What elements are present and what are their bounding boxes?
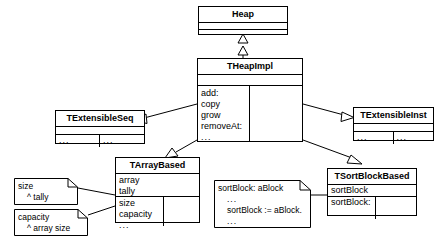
note-line: sortBlock := aBlock. [218, 205, 307, 216]
class-textensibleinst-operations-left: ... [354, 132, 394, 144]
operation-row-ellipsis: ... [116, 220, 163, 231]
class-textensibleseq-title: TExtensibleSeq [56, 111, 144, 127]
operation-row-ellipsis: ... [394, 132, 434, 143]
operation-row-ellipsis: ... [56, 135, 99, 146]
operation-row: add: [198, 88, 249, 99]
note-line: ^ tally [18, 192, 74, 203]
class-textensibleinst[interactable]: TExtensibleInst ... ... [353, 107, 434, 141]
connector-theapimpl-to-tarraybased [165, 140, 197, 158]
connector-theapimpl-to-heap [238, 34, 248, 58]
class-theapimpl-operations-left: add: copy grow removeAt: ... [198, 86, 250, 142]
class-textensibleseq-attributes [56, 127, 144, 135]
class-textensibleinst-operations: ... ... [354, 132, 433, 144]
class-tarraybased-operations-left: size capacity ... [116, 197, 164, 226]
class-theapimpl[interactable]: THeapImpl add: copy grow removeAt: ... [197, 58, 303, 142]
operation-row: copy [198, 99, 249, 110]
class-heap-operations [199, 30, 287, 37]
attribute-row: tally [116, 186, 199, 197]
attribute-row: sortBlock [328, 185, 416, 196]
operation-row-ellipsis: ... [354, 132, 393, 143]
note-size[interactable]: size ^ tally [14, 178, 78, 205]
operation-row: size [116, 198, 163, 209]
note-line-ellipsis: ... [218, 194, 307, 205]
operation-row: removeAt: [198, 121, 249, 132]
attribute-row: array [116, 175, 199, 186]
connector-capacity-note-to-tarraybased [88, 206, 115, 215]
class-textensibleseq[interactable]: TExtensibleSeq ... ... [55, 110, 145, 144]
uml-class-diagram: Heap THeapImpl add: copy grow removeAt: … [0, 0, 437, 248]
class-theapimpl-attributes [198, 75, 302, 86]
note-line: ^ array size [18, 223, 84, 234]
class-tarraybased[interactable]: TArrayBased array tally size capacity ..… [115, 157, 200, 223]
operation-row-ellipsis: ... [198, 132, 249, 143]
class-textensibleinst-operations-right: ... [394, 132, 434, 144]
connector-theapimpl-to-textensibleinst [303, 104, 354, 122]
operation-row: grow [198, 110, 249, 121]
class-textensibleseq-operations-right: ... [100, 135, 144, 147]
class-tsortblockbased-title: TSortBlockBased [328, 169, 416, 185]
note-line: sortBlock: aBlock [218, 183, 307, 194]
class-tsortblockbased[interactable]: TSortBlockBased sortBlock sortBlock: ... [327, 168, 417, 216]
class-heap-attributes [199, 23, 287, 30]
class-tarraybased-title: TArrayBased [116, 158, 199, 174]
note-line: size [18, 181, 74, 192]
class-heap[interactable]: Heap [198, 6, 288, 35]
class-tsortblockbased-operations: sortBlock: ... [328, 197, 416, 219]
class-theapimpl-operations-right [250, 86, 302, 142]
note-capacity[interactable]: capacity ^ array size [14, 209, 88, 236]
note-line-ellipsis: ... [218, 216, 307, 227]
class-textensibleinst-title: TExtensibleInst [354, 108, 433, 124]
connector-size-note-to-tarraybased [78, 188, 115, 195]
note-sortblock-text: sortBlock: aBlock ... sortBlock := aBloc… [214, 180, 311, 227]
class-tsortblockbased-operations-right [376, 197, 416, 219]
note-sortblock[interactable]: sortBlock: aBlock ... sortBlock := aBloc… [214, 180, 311, 228]
note-capacity-text: capacity ^ array size [14, 209, 88, 234]
class-tarraybased-attributes: array tally [116, 174, 199, 197]
operation-row-ellipsis: ... [100, 135, 144, 146]
class-tsortblockbased-attributes: sortBlock [328, 185, 416, 197]
operation-row: sortBlock: [328, 197, 375, 208]
note-line: capacity [18, 212, 84, 223]
operation-row-ellipsis: ... [328, 208, 375, 219]
note-size-text: size ^ tally [14, 178, 78, 203]
class-heap-title: Heap [199, 7, 287, 23]
class-tarraybased-operations: size capacity ... [116, 197, 199, 226]
class-textensibleseq-operations: ... ... [56, 135, 144, 147]
class-tsortblockbased-operations-left: sortBlock: ... [328, 197, 376, 219]
class-textensibleinst-attributes [354, 124, 433, 132]
class-textensibleseq-operations-left: ... [56, 135, 100, 147]
class-theapimpl-operations: add: copy grow removeAt: ... [198, 86, 302, 142]
class-tarraybased-operations-right [164, 197, 199, 226]
operation-row: capacity [116, 209, 163, 220]
class-theapimpl-title: THeapImpl [198, 59, 302, 75]
